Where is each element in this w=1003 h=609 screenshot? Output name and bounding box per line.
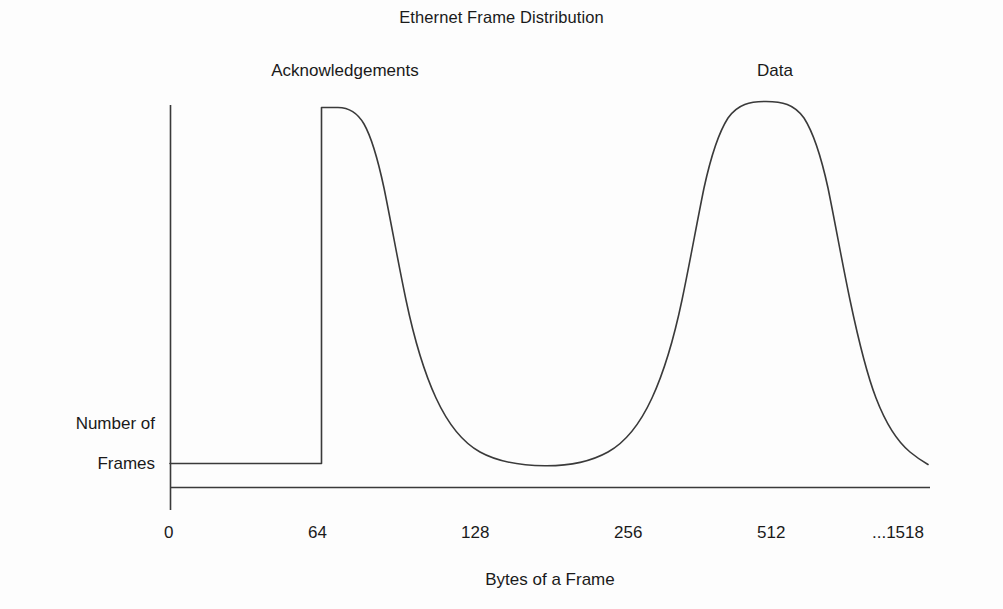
- x-tick-label-128: 128: [461, 523, 489, 543]
- y-axis-label-line-2: Frames: [0, 454, 155, 474]
- x-axis-label: Bytes of a Frame: [350, 570, 750, 590]
- x-tick-label-0: 0: [164, 523, 173, 543]
- chart-figure: Ethernet Frame Distribution Acknowledgem…: [0, 0, 1003, 609]
- x-tick-label-512: 512: [757, 523, 785, 543]
- y-axis-label: Number of Frames: [0, 394, 155, 514]
- chart-title: Ethernet Frame Distribution: [0, 8, 1003, 27]
- distribution-curve: [170, 102, 928, 466]
- annotation-acknowledgements: Acknowledgements: [195, 61, 495, 81]
- annotation-data: Data: [675, 61, 875, 81]
- x-tick-label-64: 64: [308, 523, 327, 543]
- x-tick-label-1518: ...1518: [872, 523, 924, 543]
- x-tick-label-256: 256: [614, 523, 642, 543]
- y-axis-label-line-1: Number of: [76, 414, 155, 433]
- chart-plot-area: [0, 0, 1003, 609]
